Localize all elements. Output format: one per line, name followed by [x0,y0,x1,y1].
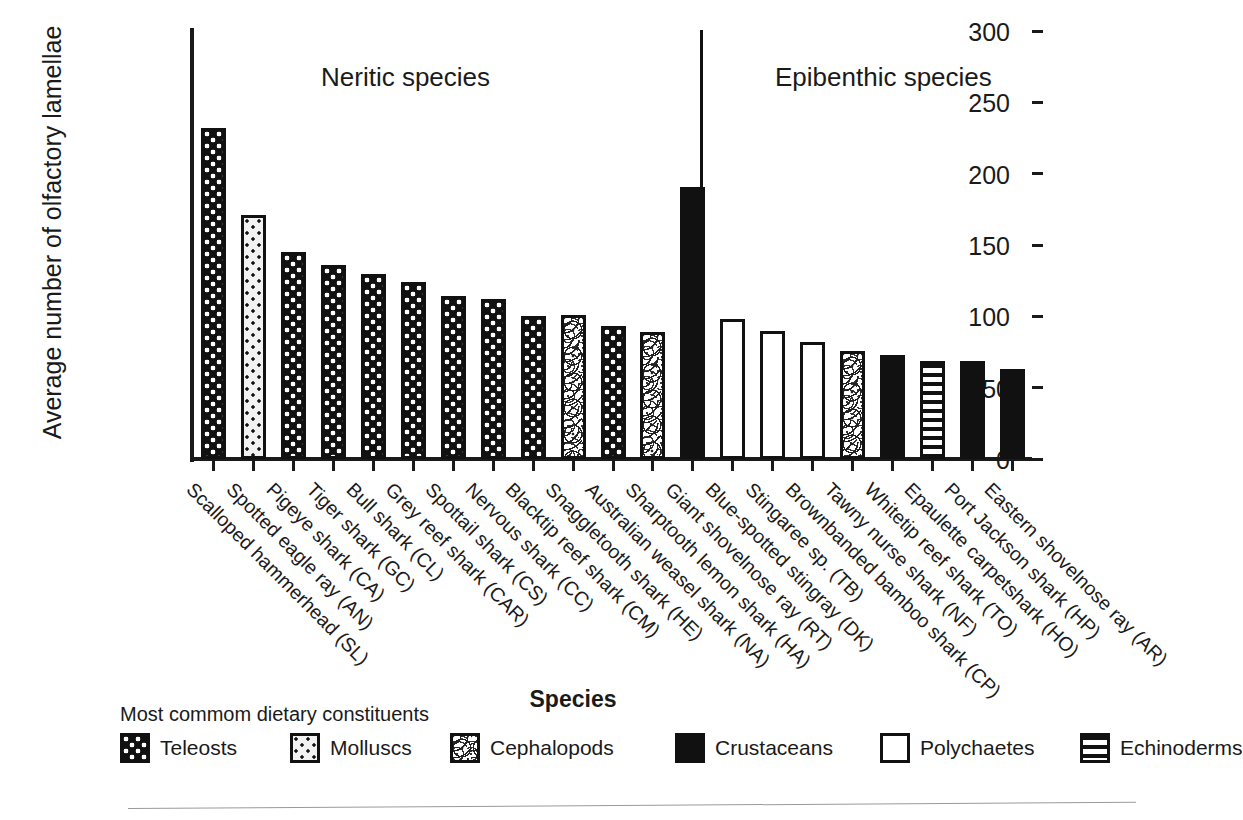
bar [601,326,626,459]
y-tick-label: 200 [890,161,1010,190]
bar [640,332,665,459]
bar [201,128,226,459]
legend-swatch-echinoderms [1080,733,1110,763]
legend-label-cephalopods: Cephalopods [490,736,614,760]
bar [840,351,865,459]
bar [800,342,825,459]
x-tick [891,461,894,471]
group-divider-line [700,30,703,460]
legend-swatch-polychaetes [880,733,910,763]
x-tick [811,461,814,471]
x-tick [1011,461,1014,471]
bar [1000,369,1025,459]
bar [521,316,546,459]
bar [960,361,985,459]
y-tick-label: 0 [890,446,1010,475]
bar [441,296,466,459]
legend-label-polychaetes: Polychaetes [920,736,1034,760]
bar [880,355,905,459]
x-tick [532,461,535,471]
bar [481,299,506,459]
legend-item-echinoderms: Echinoderms [1080,731,1243,765]
legend-label-echinoderms: Echinoderms [1120,736,1243,760]
page-rule [128,802,1136,809]
x-tick [691,461,694,471]
x-tick [971,461,974,471]
y-tick-label: 150 [890,232,1010,261]
y-axis-title: Average number of olfactory lamellae [38,13,67,453]
y-tick-label: 100 [890,303,1010,332]
bar [760,331,785,459]
legend-swatch-teleosts [120,733,150,763]
y-tick [1032,386,1043,389]
bar [321,265,346,459]
legend-title: Most commom dietary constituents [120,703,429,726]
x-tick [851,461,854,471]
legend-item-cephalopods: Cephalopods [450,731,614,765]
bar [561,315,586,459]
bar [401,282,426,459]
x-tick [651,461,654,471]
y-tick [1032,172,1043,175]
x-tick [252,461,255,471]
y-tick-label: 250 [890,89,1010,118]
y-tick [1032,101,1043,104]
x-tick [372,461,375,471]
x-tick [612,461,615,471]
y-tick [1032,244,1043,247]
y-tick-label: 50 [890,375,1010,404]
y-tick [1032,30,1043,33]
x-tick [412,461,415,471]
x-tick [332,461,335,471]
legend-item-molluscs: Molluscs [290,731,412,765]
x-tick [572,461,575,471]
legend-swatch-molluscs [290,733,320,763]
bar [281,252,306,459]
x-tick [771,461,774,471]
legend-item-teleosts: Teleosts [120,731,237,765]
y-tick [1032,458,1043,461]
x-tick [452,461,455,471]
legend-item-polychaetes: Polychaetes [880,731,1034,765]
x-tick [492,461,495,471]
legend-swatch-cephalopods [450,733,480,763]
y-tick-label: 300 [890,18,1010,47]
y-tick [1032,315,1043,318]
x-tick [292,461,295,471]
plot-area: 050100150200250300 [194,31,1032,459]
bar [361,274,386,459]
legend-item-crustaceans: Crustaceans [675,731,833,765]
legend-label-teleosts: Teleosts [160,736,237,760]
bar [241,215,266,459]
bar [720,319,745,459]
bar [920,361,945,459]
x-tick [931,461,934,471]
x-tick [212,461,215,471]
group-label-neritic: Neritic species [321,62,490,93]
legend-label-molluscs: Molluscs [330,736,412,760]
legend-label-crustaceans: Crustaceans [715,736,833,760]
legend-swatch-crustaceans [675,733,705,763]
x-tick [731,461,734,471]
group-label-epibenthic: Epibenthic species [775,62,992,93]
